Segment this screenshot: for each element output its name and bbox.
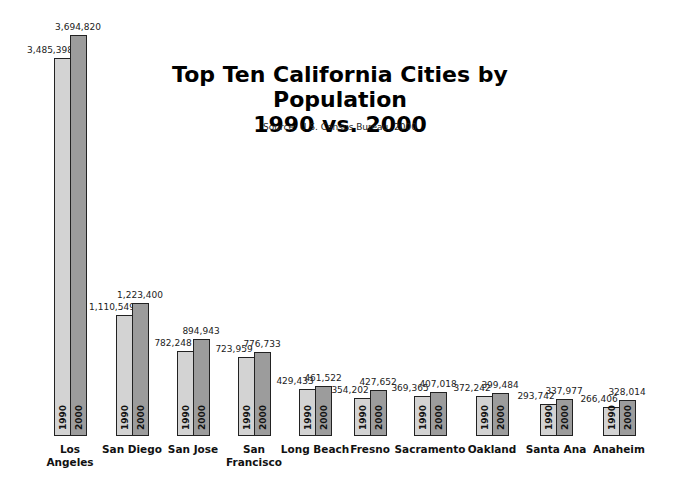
bar-2000: 2000: [370, 390, 387, 436]
bar-year-label: 1990: [417, 406, 429, 430]
bar-value-label: 407,018: [419, 379, 456, 389]
bar-2000: 2000: [556, 399, 573, 436]
bar-year-label: 1990: [543, 406, 555, 430]
bar-1990: 1990: [116, 315, 133, 436]
bar-value-label: 3,694,820: [55, 22, 101, 32]
bar-1990: 1990: [238, 357, 255, 436]
bar-1990: 1990: [299, 389, 316, 436]
bar-1990: 1990: [354, 398, 371, 436]
bar-2000: 2000: [254, 352, 271, 436]
bar-2000: 2000: [193, 339, 210, 436]
bar-value-label: 328,014: [608, 387, 645, 397]
category-label: Anaheim: [579, 443, 659, 456]
bar-year-label: 2000: [373, 406, 385, 430]
bar-value-label: 399,484: [481, 380, 518, 390]
bar-year-label: 2000: [622, 406, 634, 430]
bar-value-label: 3,485,398: [27, 45, 73, 55]
bar-2000: 2000: [132, 303, 149, 436]
bar-1990: 1990: [540, 404, 557, 436]
bar-1990: 1990: [54, 58, 71, 436]
bar-1990: 1990: [177, 351, 194, 436]
bar-1990: 1990: [476, 396, 493, 436]
bar-year-label: 2000: [135, 406, 147, 430]
bar-year-label: 1990: [606, 406, 618, 430]
bar-year-label: 2000: [257, 406, 269, 430]
bar-year-label: 2000: [73, 406, 85, 430]
bar-year-label: 1990: [479, 406, 491, 430]
bar-value-label: 894,943: [182, 326, 219, 336]
bar-value-label: 782,248: [154, 338, 191, 348]
bar-year-label: 1990: [241, 406, 253, 430]
bar-year-label: 2000: [433, 406, 445, 430]
bar-year-label: 1990: [57, 406, 69, 430]
bar-2000: 2000: [315, 386, 332, 436]
bar-year-label: 1990: [302, 406, 314, 430]
bar-year-label: 1990: [180, 406, 192, 430]
bar-year-label: 2000: [196, 406, 208, 430]
bar-year-label: 1990: [357, 406, 369, 430]
bar-2000: 2000: [492, 393, 509, 436]
bar-value-label: 1,110,549: [89, 302, 135, 312]
bar-1990: 1990: [414, 396, 431, 436]
bar-chart: 19903,485,39820003,694,820LosAngeles1990…: [0, 0, 673, 485]
bar-2000: 2000: [70, 35, 87, 436]
bar-value-label: 776,733: [243, 339, 280, 349]
bar-year-label: 1990: [119, 406, 131, 430]
bar-value-label: 1,223,400: [117, 290, 163, 300]
bar-value-label: 461,522: [304, 373, 341, 383]
bar-year-label: 2000: [318, 406, 330, 430]
bar-year-label: 2000: [559, 406, 571, 430]
bar-2000: 2000: [430, 392, 447, 436]
bar-2000: 2000: [619, 400, 636, 436]
bar-1990: 1990: [603, 407, 620, 436]
bar-year-label: 2000: [495, 406, 507, 430]
bar-value-label: 337,977: [545, 386, 582, 396]
